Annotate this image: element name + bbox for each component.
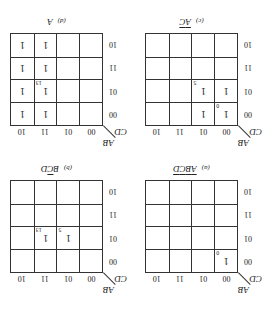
row-label: 10 <box>244 33 252 56</box>
kmap-cell <box>192 227 215 250</box>
row-label: 11 <box>109 203 117 226</box>
kmap-cell <box>57 34 80 57</box>
row-label: 10 <box>109 180 117 203</box>
row-labels: 00011110 <box>109 33 117 126</box>
cell-value: 1 <box>43 86 48 97</box>
row-label: 01 <box>109 80 117 103</box>
minterm-index: 0 <box>216 103 219 109</box>
column-label: 10 <box>10 127 33 136</box>
kmap-cell: 1 <box>11 102 34 125</box>
kmap-cell <box>146 102 169 125</box>
minterm-index: 13 <box>36 81 42 87</box>
row-label: 11 <box>244 203 252 226</box>
column-label: 01 <box>57 127 80 136</box>
row-label: 11 <box>244 56 252 79</box>
kmap-cell <box>169 34 192 57</box>
column-label: 11 <box>33 127 56 136</box>
row-variable-label: CD <box>249 127 262 137</box>
kmap-cell <box>79 249 102 272</box>
kmap-cell: 1 <box>11 34 34 57</box>
kmap-cell <box>169 57 192 80</box>
kmap-cell <box>79 204 102 227</box>
kmap-cell <box>214 227 237 250</box>
column-label: 01 <box>57 274 80 283</box>
row-label: 10 <box>109 33 117 56</box>
cell-value: 1 <box>224 109 229 120</box>
kmap-cell <box>79 227 102 250</box>
kmap-cell <box>169 102 192 125</box>
minterm-index: 13 <box>36 228 42 234</box>
kmap-cell <box>146 249 169 272</box>
cell-value: 1 <box>43 63 48 74</box>
kmap-b: ABCD000111100001111015113(b)BCD <box>0 157 135 314</box>
minterm-index: 0 <box>216 250 219 256</box>
column-label: 01 <box>192 127 215 136</box>
column-label: 10 <box>145 274 168 283</box>
minterm-index: 5 <box>59 228 62 234</box>
caption-literal: C <box>179 17 185 27</box>
kmap-cell <box>57 181 80 204</box>
kmap-cell <box>146 227 169 250</box>
kmap-cell <box>79 34 102 57</box>
kmap-cell <box>169 227 192 250</box>
cell-value: 1 <box>201 86 206 97</box>
kmap-cell <box>34 249 57 272</box>
kmap-cell <box>214 34 237 57</box>
row-label: 00 <box>244 250 252 273</box>
column-label: 10 <box>145 127 168 136</box>
kmap-cell <box>34 181 57 204</box>
row-label: 00 <box>109 250 117 273</box>
col-variable-label: AB <box>238 285 249 295</box>
map-caption: (d)A <box>10 17 103 27</box>
kmap-cell <box>192 34 215 57</box>
kmap-cell <box>169 80 192 103</box>
column-label: 10 <box>10 274 33 283</box>
kmap-cell <box>57 204 80 227</box>
cell-value: 1 <box>224 256 229 267</box>
row-label: 01 <box>109 227 117 250</box>
caption-tag: (c) <box>196 17 204 25</box>
column-labels: 00011110 <box>10 127 103 136</box>
column-labels: 00011110 <box>145 127 238 136</box>
kmap-cell <box>11 204 34 227</box>
caption-literal: A <box>47 17 53 27</box>
cell-value: 1 <box>43 40 48 51</box>
kmap-cell: 15 <box>192 80 215 103</box>
kmap-cell: 1 <box>192 102 215 125</box>
column-labels: 00011110 <box>10 274 103 283</box>
cell-value: 1 <box>20 86 25 97</box>
kmap-cell: 10 <box>214 102 237 125</box>
kmap-cell: 1 <box>11 57 34 80</box>
minterm-index: 5 <box>194 81 197 87</box>
kmap-cell <box>146 57 169 80</box>
kmap-cell <box>146 34 169 57</box>
kmap-cell <box>57 249 80 272</box>
kmap-grid: 15113 <box>10 180 103 273</box>
column-label: 11 <box>33 274 56 283</box>
kmap-cell <box>192 181 215 204</box>
row-label: 01 <box>244 227 252 250</box>
row-label: 00 <box>244 103 252 126</box>
kmap-cell <box>11 181 34 204</box>
kmap-cell <box>79 80 102 103</box>
kmap-cell: 113 <box>34 227 57 250</box>
kmap-cell <box>146 204 169 227</box>
cell-value: 1 <box>20 40 25 51</box>
column-label: 00 <box>215 274 238 283</box>
kmap-cell <box>214 57 237 80</box>
cell-value: 1 <box>66 233 71 244</box>
kmap-cell <box>192 249 215 272</box>
kmap-cell: 1 <box>34 34 57 57</box>
kmap-cell: 10 <box>214 249 237 272</box>
karnaugh-map-figure: ABCD000111100001111010(a)ABCD ABCD000111… <box>0 0 270 314</box>
column-label: 11 <box>168 274 191 283</box>
kmap-cell: 113 <box>34 80 57 103</box>
column-label: 00 <box>80 274 103 283</box>
kmap-cell: 1 <box>214 80 237 103</box>
cell-value: 1 <box>20 109 25 120</box>
kmap-cell <box>11 249 34 272</box>
kmap-cell <box>79 102 102 125</box>
kmap-c: ABCD0001111000011110101115(c)AC <box>135 10 270 167</box>
kmap-cell <box>169 249 192 272</box>
row-label: 11 <box>109 56 117 79</box>
